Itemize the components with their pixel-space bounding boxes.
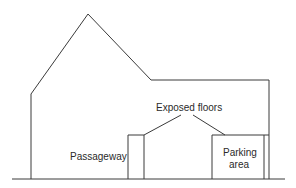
- leader-line-passageway: [144, 115, 181, 135]
- parking-label-line2: area: [229, 159, 249, 170]
- parking-label-line1: Parking: [223, 147, 257, 158]
- building-diagram: [0, 0, 296, 188]
- exposed-floors-label: Exposed floors: [156, 102, 222, 113]
- passageway-label: Passageway: [70, 151, 127, 162]
- passageway-box: [128, 135, 144, 179]
- leader-line-parking: [193, 115, 225, 135]
